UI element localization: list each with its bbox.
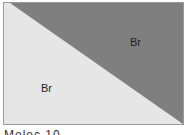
diagram-frame: Br Br [3, 2, 184, 125]
lower-region-label: Br [41, 83, 52, 94]
diagonal-split-shape [4, 3, 183, 124]
figure-caption: Molec 10 [4, 129, 61, 135]
upper-region-label: Br [130, 37, 141, 48]
